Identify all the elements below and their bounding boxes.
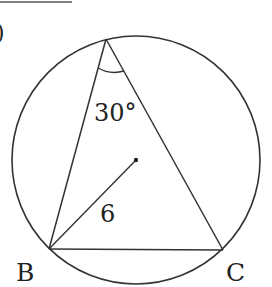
radius-label: 6	[100, 200, 115, 228]
radius-line	[49, 160, 136, 249]
vertex-label-c: C	[226, 258, 245, 287]
angle-label: 30°	[94, 99, 137, 127]
angle-arc	[99, 68, 125, 72]
partial-paren: )	[0, 20, 5, 45]
vertex-label-b: B	[16, 258, 34, 287]
circle-diagram: ) 30° 6 B C	[0, 0, 272, 287]
side-bc	[49, 249, 223, 250]
center-dot	[134, 158, 138, 162]
side-ab	[49, 39, 106, 249]
